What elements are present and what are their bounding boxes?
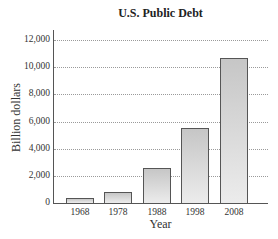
- x-tick-label: 1978: [98, 207, 138, 217]
- x-tick-label: 1998: [175, 207, 215, 217]
- x-tick-label: 1968: [60, 207, 100, 217]
- y-tick-label: 2,000: [6, 170, 50, 180]
- y-tick-label: 0: [6, 197, 50, 207]
- x-tick-label: 2008: [214, 207, 254, 217]
- x-axis-line: [53, 203, 268, 204]
- y-tick-label: 8,000: [6, 88, 50, 98]
- x-tick-label: 1988: [137, 207, 177, 217]
- chart-title: U.S. Public Debt: [53, 6, 268, 21]
- y-tick-label: 6,000: [6, 116, 50, 126]
- bar-1998: [181, 128, 209, 203]
- bar-2008: [220, 58, 248, 203]
- bar-1988: [143, 168, 171, 203]
- y-tick-label: 4,000: [6, 143, 50, 153]
- x-axis-label: Year: [53, 217, 268, 232]
- bar-1978: [104, 192, 132, 203]
- gridline: [54, 40, 268, 41]
- bar-1968: [66, 198, 94, 203]
- y-axis-line: [53, 30, 54, 204]
- y-tick-label: 10,000: [6, 61, 50, 71]
- y-tick-label: 12,000: [6, 34, 50, 44]
